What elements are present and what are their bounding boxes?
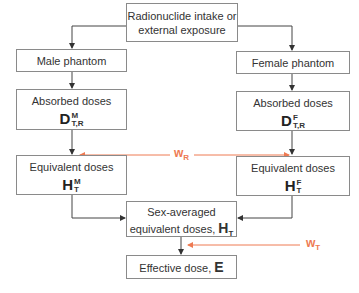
equivalent-male-symbol: H: [62, 177, 73, 193]
absorbed-male-label: Absorbed doses: [17, 94, 126, 108]
equivalent-female-label: Equivalent doses: [237, 161, 349, 175]
effective-dose-symbol: E: [214, 259, 223, 275]
effective-dose-box: Effective dose, E: [126, 255, 237, 279]
male-phantom-box: Male phantom: [16, 49, 127, 72]
female-phantom-box: Female phantom: [236, 51, 350, 74]
absorbed-male-sub: T,R: [71, 120, 83, 128]
wr-sub: R: [183, 153, 189, 162]
absorbed-female-box: Absorbed doses DFT,R: [236, 91, 350, 131]
effective-dose-label: Effective dose,: [139, 262, 211, 274]
equivalent-female-sub: T: [296, 187, 301, 195]
source-line1: Radionuclide intake or: [127, 9, 237, 23]
female-phantom-label: Female phantom: [252, 57, 335, 69]
source-box: Radionuclide intake or external exposure: [126, 3, 238, 42]
tissue-weighting-label: wT: [306, 236, 320, 250]
equivalent-male-sub: T: [74, 186, 81, 194]
male-phantom-label: Male phantom: [37, 55, 107, 67]
absorbed-male-box: Absorbed doses DMT,R: [16, 89, 127, 130]
absorbed-female-symbol: D: [281, 113, 292, 129]
wr-symbol: w: [174, 146, 183, 160]
absorbed-female-label: Absorbed doses: [237, 96, 349, 110]
sex-averaged-sub: T: [228, 229, 233, 238]
equivalent-female-box: Equivalent doses HFT: [236, 156, 350, 196]
sex-averaged-line1: Sex-averaged: [127, 205, 236, 219]
source-line2: external exposure: [127, 23, 237, 37]
wt-symbol: w: [306, 236, 315, 250]
equivalent-female-symbol: H: [285, 178, 296, 194]
radiation-weighting-label: wR: [174, 146, 189, 160]
wt-sub: T: [315, 243, 320, 252]
equivalent-male-box: Equivalent doses HMT: [16, 155, 127, 195]
equivalent-male-label: Equivalent doses: [17, 160, 126, 174]
sex-averaged-line2: equivalent doses,: [130, 223, 216, 235]
absorbed-female-sub: T,R: [293, 122, 305, 130]
absorbed-male-symbol: D: [60, 111, 71, 127]
sex-averaged-box: Sex-averaged equivalent doses, HT: [126, 201, 237, 237]
sex-averaged-symbol: H: [218, 220, 228, 236]
